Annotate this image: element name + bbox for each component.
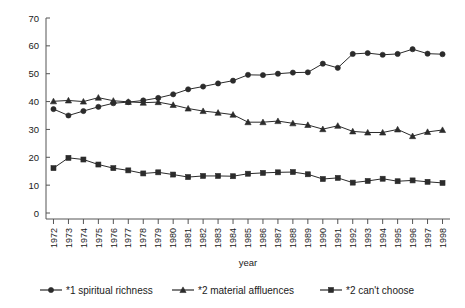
x-tick-label: 1991 (333, 228, 343, 248)
x-tick-label: 1998 (438, 228, 448, 248)
data-point-circle (305, 70, 310, 75)
data-point-square (111, 166, 116, 171)
data-point-circle (215, 81, 220, 86)
x-axis-title-text: year (239, 257, 257, 268)
data-point-square (410, 178, 415, 183)
x-tick-label: 1972 (49, 228, 59, 248)
x-tick-label: 1990 (318, 228, 328, 248)
data-point-square (440, 180, 445, 185)
x-tick-label: 1986 (258, 228, 268, 248)
data-point-circle (395, 51, 400, 56)
x-axis-title: year (239, 257, 257, 268)
data-point-square (126, 168, 131, 173)
data-point-circle (245, 72, 250, 77)
x-tick-label: 1980 (168, 228, 178, 248)
legend-item-1[interactable]: *1 spiritual richness (40, 285, 153, 296)
data-point-square (96, 162, 101, 167)
x-tick-label: 1994 (378, 228, 388, 248)
x-tick-label: 1976 (109, 228, 119, 248)
data-point-circle (66, 113, 71, 118)
data-point-square (425, 179, 430, 184)
x-tick-label: 1993 (363, 228, 373, 248)
data-point-circle (320, 61, 325, 66)
series-1 (51, 47, 445, 119)
data-point-circle (81, 108, 86, 113)
x-tick-label: 1988 (288, 228, 298, 248)
data-point-circle (380, 52, 385, 57)
chart-container: 010203040506070 197219731974197519761977… (0, 0, 465, 308)
x-axis (46, 219, 450, 224)
data-point-triangle (95, 95, 101, 101)
x-tick-label: 1978 (138, 228, 148, 248)
data-point-circle (410, 47, 415, 52)
data-point-circle (260, 73, 265, 78)
legend-label: *2 can't choose (346, 285, 415, 296)
series-3 (51, 155, 445, 185)
x-tick-label: 1992 (348, 228, 358, 248)
y-tick-label: 70 (28, 13, 39, 24)
data-point-square (290, 170, 295, 175)
data-point-square (171, 172, 176, 177)
data-point-circle (425, 51, 430, 56)
data-point-square (395, 179, 400, 184)
line-chart: 010203040506070 197219731974197519761977… (0, 0, 465, 308)
data-point-circle (335, 65, 340, 70)
data-point-square (156, 170, 161, 175)
y-tick-label: 0 (34, 208, 39, 219)
data-point-circle (290, 70, 295, 75)
legend-item-2[interactable]: *2 material affluences (172, 285, 294, 296)
data-point-triangle (439, 127, 445, 133)
data-point-circle (275, 71, 280, 76)
data-point-square (335, 175, 340, 180)
legend-item-3[interactable]: *2 can't choose (320, 285, 415, 296)
x-tick-label: 1983 (213, 228, 223, 248)
x-tick-label: 1987 (273, 228, 283, 248)
data-point-square (246, 171, 251, 176)
data-point-circle (440, 52, 445, 57)
data-point-circle (350, 51, 355, 56)
data-point-square (201, 173, 206, 178)
y-tick-label: 50 (28, 68, 39, 79)
data-point-circle (230, 78, 235, 83)
legend-marker-circle (48, 287, 53, 292)
data-point-circle (186, 87, 191, 92)
data-point-triangle (335, 123, 341, 129)
data-point-circle (365, 51, 370, 56)
data-point-square (305, 172, 310, 177)
series-layer (50, 47, 445, 186)
data-point-square (380, 176, 385, 181)
x-tick-label: 1997 (423, 228, 433, 248)
x-tick-label: 1982 (198, 228, 208, 248)
y-tick-label: 10 (28, 180, 39, 191)
x-tick-label: 1984 (228, 228, 238, 248)
data-point-square (231, 174, 236, 179)
data-point-circle (201, 84, 206, 89)
y-tick-label: 60 (28, 40, 39, 51)
data-point-square (186, 175, 191, 180)
x-tick-label: 1996 (408, 228, 418, 248)
data-point-square (216, 173, 221, 178)
x-tick-label: 1985 (243, 228, 253, 248)
legend-label: *2 material affluences (198, 285, 294, 296)
x-tick-label: 1973 (64, 228, 74, 248)
data-point-square (320, 177, 325, 182)
data-point-square (275, 170, 280, 175)
x-tick-label: 1975 (94, 228, 104, 248)
x-tick-label: 1989 (303, 228, 313, 248)
data-point-triangle (395, 126, 401, 132)
data-point-circle (51, 106, 56, 111)
y-axis: 010203040506070 (28, 13, 50, 220)
data-point-square (365, 178, 370, 183)
data-point-circle (171, 92, 176, 97)
legend-marker-square (329, 288, 334, 293)
x-tick-label: 1995 (393, 228, 403, 248)
data-point-square (51, 166, 56, 171)
chart-legend: *1 spiritual richness*2 material affluen… (40, 285, 415, 296)
y-tick-label: 20 (28, 152, 39, 163)
data-point-square (81, 157, 86, 162)
x-tick-label: 1981 (183, 228, 193, 248)
legend-label: *1 spiritual richness (66, 285, 153, 296)
x-tick-label: 1979 (153, 228, 163, 248)
series-2 (50, 95, 445, 139)
data-point-square (350, 180, 355, 185)
